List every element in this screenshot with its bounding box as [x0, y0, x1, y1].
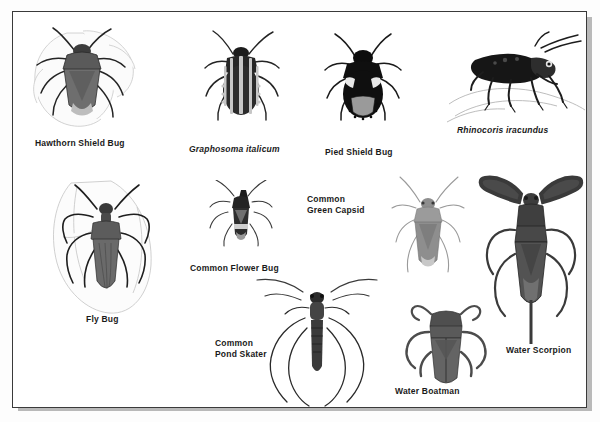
illustration-plate: Hawthorn Shield Bug [12, 11, 587, 408]
plate-page: Hawthorn Shield Bug [0, 0, 600, 422]
specimen-graphosoma-italicum[interactable]: Graphosoma italicum [189, 28, 294, 148]
shield-bug-on-leaf-icon [23, 25, 148, 130]
specimen-fly-bug[interactable]: Fly Bug [41, 177, 171, 327]
specimen-rhinocoris-iracundus[interactable]: Rhinocoris iracundus [445, 30, 590, 150]
caption-water-scorpion: Water Scorpion [506, 345, 571, 356]
caption-common-green-capsid: Common Green Capsid [307, 194, 365, 216]
caption-common-pond-skater: Common Pond Skater [215, 338, 267, 360]
capsid-bug-icon [384, 176, 474, 291]
caption-fly-bug: Fly Bug [86, 314, 119, 325]
striped-shield-bug-icon [189, 28, 294, 133]
black-white-shield-bug-icon [313, 32, 413, 132]
assassin-bug-side-view-icon [445, 30, 590, 128]
caption-hawthorn-shield-bug: Hawthorn Shield Bug [35, 138, 125, 149]
fly-bug-on-leaf-icon [41, 177, 171, 317]
water-scorpion-icon [471, 170, 591, 350]
specimen-common-pond-skater[interactable]: Common Pond Skater [245, 268, 390, 410]
specimen-water-scorpion[interactable]: Water Scorpion [471, 170, 591, 360]
specimen-pied-shield-bug[interactable]: Pied Shield Bug [313, 32, 413, 152]
caption-graphosoma-italicum: Graphosoma italicum [189, 144, 280, 155]
specimen-hawthorn-shield-bug[interactable]: Hawthorn Shield Bug [23, 25, 148, 130]
caption-pied-shield-bug: Pied Shield Bug [325, 147, 393, 158]
specimen-common-green-capsid[interactable]: Common Green Capsid [384, 176, 474, 296]
caption-rhinocoris-iracundus: Rhinocoris iracundus [457, 125, 548, 136]
small-flower-bug-icon [190, 180, 300, 260]
caption-water-boatman: Water Boatman [395, 386, 460, 397]
